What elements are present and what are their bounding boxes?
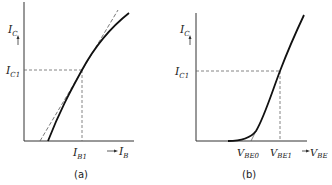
x-axis-subscript: B bbox=[122, 152, 128, 160]
caption-a: (a) bbox=[74, 169, 88, 180]
panel-b: IC IC1 VBE0 VBE1 VBE (b) bbox=[174, 13, 328, 180]
svg-text:IB: IB bbox=[118, 145, 129, 160]
ic1-subscript: C1 bbox=[179, 72, 189, 80]
ic1-subscript: C1 bbox=[10, 71, 20, 79]
svg-text:VBE0: VBE0 bbox=[237, 147, 259, 160]
ic-vs-vbe-curve bbox=[228, 15, 304, 141]
panel-a: IC IC1 IB1 IB (a) bbox=[5, 2, 134, 180]
svg-text:IB1: IB1 bbox=[72, 146, 87, 161]
vbe1-subscript: BE1 bbox=[276, 152, 292, 160]
right-arrow-icon bbox=[107, 150, 118, 153]
caption-b: (b) bbox=[242, 169, 256, 180]
ib1-subscript: B1 bbox=[76, 153, 87, 161]
svg-text:IC1: IC1 bbox=[174, 65, 189, 80]
svg-text:IC: IC bbox=[179, 23, 190, 38]
svg-text:IC1: IC1 bbox=[5, 64, 20, 79]
transfer-characteristics-figure: IC IC1 IB1 IB (a) IC bbox=[0, 0, 332, 185]
ic-vs-ib-curve bbox=[48, 13, 129, 141]
x-axis-subscript: BE bbox=[316, 152, 327, 160]
vbe0-subscript: BE0 bbox=[243, 152, 259, 160]
svg-text:IC: IC bbox=[7, 23, 18, 38]
svg-text:VBE: VBE bbox=[310, 147, 328, 160]
right-arrow-icon bbox=[302, 150, 310, 153]
svg-text:VBE1: VBE1 bbox=[270, 147, 292, 160]
